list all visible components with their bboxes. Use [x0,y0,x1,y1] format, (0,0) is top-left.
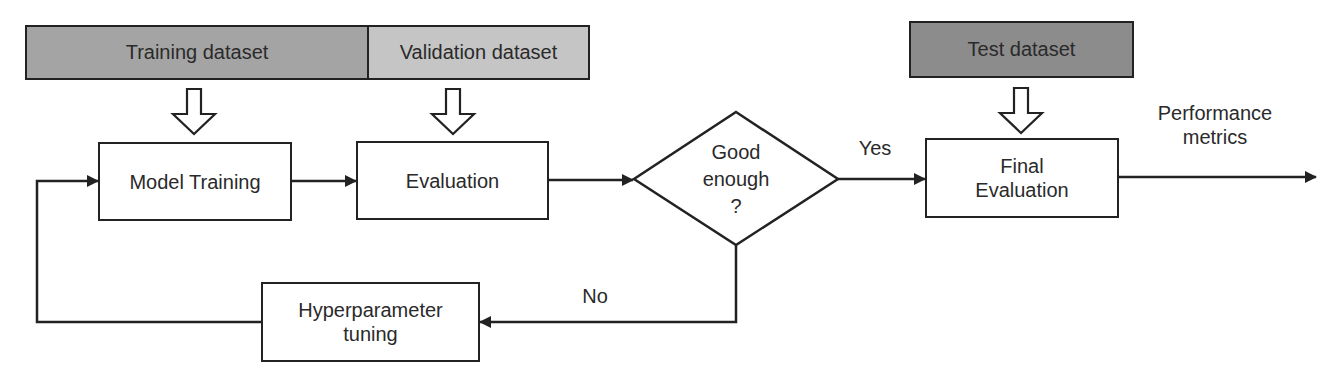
performance-metrics-line1: Performance [1140,101,1290,125]
hyperparameter-label-line2: tuning [343,322,398,346]
model-training-label: Model Training [129,170,260,194]
final-evaluation-label-line1: Final [1000,154,1043,178]
workflow-diagram: Training dataset Validation dataset Test… [0,0,1343,386]
hollow-arrow-training-icon [173,89,215,134]
hollow-arrow-validation-icon [432,89,474,134]
hyperparameter-label-line1: Hyperparameter [298,298,443,322]
validation-dataset-label: Validation dataset [400,41,558,64]
decision-label-line2: enough [686,166,786,193]
performance-metrics-line2: metrics [1140,125,1290,149]
test-dataset-bar: Test dataset [909,21,1134,78]
decision-label-line3: ? [686,193,786,220]
training-dataset-bar: Training dataset [25,25,369,80]
no-label: No [575,284,615,308]
yes-label: Yes [850,136,900,160]
final-evaluation-box: Final Evaluation [925,138,1119,218]
test-dataset-label: Test dataset [968,38,1076,61]
training-dataset-label: Training dataset [126,41,269,64]
decision-label-line1: Good [686,139,786,166]
decision-label: Good enough ? [686,139,786,220]
model-training-box: Model Training [98,142,292,221]
final-evaluation-label-line2: Evaluation [975,178,1068,202]
hyperparameter-tuning-box: Hyperparameter tuning [261,282,480,362]
hollow-arrow-test-icon [1000,88,1042,133]
performance-metrics-label: Performance metrics [1140,101,1290,149]
evaluation-box: Evaluation [356,141,549,220]
validation-dataset-bar: Validation dataset [367,25,590,80]
evaluation-label: Evaluation [406,169,499,193]
